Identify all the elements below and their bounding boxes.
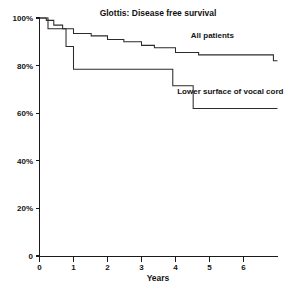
x-tick-label: 1 [71,263,76,272]
x-axis-title: Years [147,273,170,283]
chart-title: Glottis: Disease free survival [100,8,217,18]
y-tick-label: 60% [17,109,33,118]
x-tick-label: 0 [37,263,42,272]
y-tick-label: 20% [17,204,33,213]
x-tick-label: 3 [139,263,144,272]
survival-chart-figure: Glottis: Disease free survival 020%40%60… [0,0,300,290]
y-tick-label: 80% [17,62,33,71]
series-label: All patients [191,31,235,40]
axes-group [40,18,279,257]
y-tick-label: 100% [13,14,33,23]
survival-curve [40,18,278,61]
y-axis-ticks: 020%40%60%80%100% [13,14,40,261]
x-tick-label: 6 [241,263,246,272]
x-axis-ticks: 0123456 [37,257,246,273]
series-label: Lower surface of vocal cord [177,87,283,96]
kaplan-meier-plot: Glottis: Disease free survival 020%40%60… [0,0,300,290]
y-tick-label: 0 [29,252,34,261]
x-tick-label: 5 [207,263,212,272]
chart-title-group: Glottis: Disease free survival [100,8,217,18]
series-annotations-group: All patientsLower surface of vocal cord [177,31,283,96]
x-tick-label: 2 [105,263,110,272]
y-tick-label: 40% [17,157,33,166]
x-tick-label: 4 [173,263,178,272]
